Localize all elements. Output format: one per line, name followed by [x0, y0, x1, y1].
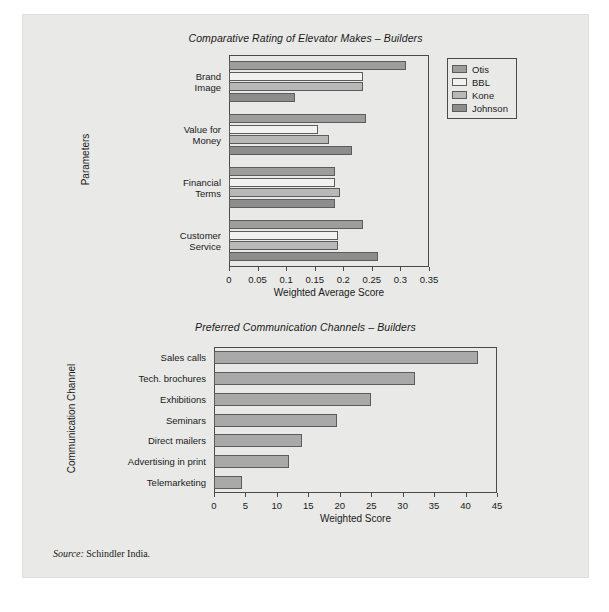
- x-tick-label: 0.1: [280, 274, 293, 285]
- x-tick: [372, 267, 373, 271]
- figure-page: Comparative Rating of Elevator Makes – B…: [0, 0, 609, 612]
- x-tick-label: 0: [211, 500, 216, 511]
- bar: [214, 372, 415, 385]
- x-tick: [245, 493, 246, 497]
- x-tick: [308, 493, 309, 497]
- x-tick: [403, 493, 404, 497]
- y-tick-label: FinancialTerms: [27, 177, 221, 199]
- x-tick-label: 0.3: [394, 274, 407, 285]
- bar: [229, 199, 335, 208]
- legend-item[interactable]: BBL: [452, 76, 511, 88]
- x-tick: [258, 267, 259, 271]
- x-tick-label: 0.35: [420, 274, 439, 285]
- bar: [229, 231, 338, 240]
- bar: [229, 167, 335, 176]
- bar: [229, 114, 366, 123]
- chart1-x-axis-title: Weighted Average Score: [229, 287, 429, 298]
- y-tick-label: BrandImage: [27, 71, 221, 93]
- source-text: Schindler India.: [86, 548, 150, 559]
- x-tick: [371, 493, 372, 497]
- bar: [214, 455, 289, 468]
- figure-panel: Comparative Rating of Elevator Makes – B…: [22, 14, 589, 578]
- source-label: Source:: [53, 548, 84, 559]
- bar: [229, 72, 363, 81]
- legend-item[interactable]: Kone: [452, 89, 511, 101]
- bar: [229, 93, 295, 102]
- legend-swatch-icon: [452, 65, 467, 73]
- legend-label: Otis: [472, 64, 489, 75]
- x-tick: [343, 267, 344, 271]
- bar: [214, 434, 302, 447]
- legend-label: BBL: [472, 77, 490, 88]
- bar: [229, 252, 378, 261]
- y-tick-label: Exhibitions: [27, 394, 206, 405]
- legend-label: Johnson: [472, 103, 508, 114]
- source-note: Source: Schindler India.: [53, 548, 150, 559]
- x-tick: [497, 493, 498, 497]
- y-tick-label: CustomerService: [27, 230, 221, 252]
- x-tick-label: 0.15: [305, 274, 324, 285]
- y-tick-label: Sales calls: [27, 352, 206, 363]
- x-tick: [434, 493, 435, 497]
- legend-swatch-icon: [452, 91, 467, 99]
- bar: [229, 125, 318, 134]
- bar: [214, 351, 478, 364]
- legend-swatch-icon: [452, 78, 467, 86]
- chart1-legend: OtisBBLKoneJohnson: [447, 58, 517, 119]
- x-tick: [229, 267, 230, 271]
- y-tick-label: Value forMoney: [27, 124, 221, 146]
- bar: [229, 135, 329, 144]
- y-tick-label: Tech. brochures: [27, 373, 206, 384]
- bar: [229, 241, 338, 250]
- x-tick-label: 15: [303, 500, 314, 511]
- legend-label: Kone: [472, 90, 494, 101]
- x-tick-label: 35: [429, 500, 440, 511]
- legend-item[interactable]: Johnson: [452, 102, 511, 114]
- bar: [229, 61, 406, 70]
- bar: [229, 82, 363, 91]
- x-tick: [214, 493, 215, 497]
- x-tick-label: 0.2: [337, 274, 350, 285]
- x-tick-label: 20: [334, 500, 345, 511]
- y-tick-label: Telemarketing: [27, 477, 206, 488]
- bar: [214, 414, 337, 427]
- chart2-x-axis-title: Weighted Score: [214, 513, 497, 524]
- bar: [229, 146, 352, 155]
- y-tick-label: Advertising in print: [27, 456, 206, 467]
- x-tick-label: 30: [397, 500, 408, 511]
- x-tick: [466, 493, 467, 497]
- x-tick: [429, 267, 430, 271]
- chart-comparative-rating: Comparative Rating of Elevator Makes – B…: [23, 15, 588, 300]
- legend-item[interactable]: Otis: [452, 63, 511, 75]
- x-tick: [400, 267, 401, 271]
- chart1-title: Comparative Rating of Elevator Makes – B…: [23, 32, 588, 44]
- y-tick-label: Direct mailers: [27, 435, 206, 446]
- x-tick-label: 0.05: [248, 274, 267, 285]
- bar: [214, 393, 371, 406]
- bar: [229, 220, 363, 229]
- x-tick: [277, 493, 278, 497]
- x-tick-label: 5: [243, 500, 248, 511]
- x-tick-label: 10: [272, 500, 283, 511]
- x-tick: [315, 267, 316, 271]
- x-tick-label: 25: [366, 500, 377, 511]
- bar: [229, 178, 335, 187]
- chart-preferred-channels: Preferred Communication Channels – Build…: [23, 305, 588, 555]
- x-tick: [340, 493, 341, 497]
- x-tick: [286, 267, 287, 271]
- x-tick-label: 0.25: [363, 274, 382, 285]
- chart2-title: Preferred Communication Channels – Build…: [23, 321, 588, 333]
- y-tick-label: Seminars: [27, 415, 206, 426]
- bar: [229, 188, 340, 197]
- x-tick-label: 0: [226, 274, 231, 285]
- x-tick-label: 40: [460, 500, 471, 511]
- bar: [214, 476, 242, 489]
- x-tick-label: 45: [492, 500, 503, 511]
- legend-swatch-icon: [452, 104, 467, 112]
